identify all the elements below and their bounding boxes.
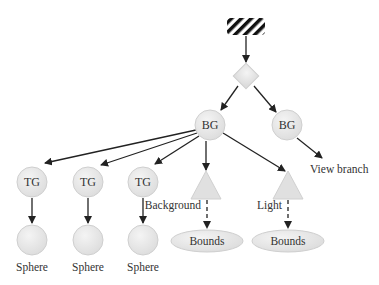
sphere-node-2: Sphere [72, 225, 104, 274]
sphere2-label: Sphere [72, 261, 104, 274]
bg2-label: BG [279, 118, 296, 132]
edge-group-bg1 [221, 86, 238, 110]
sphere-node-3: Sphere [127, 225, 159, 274]
bg1-label: BG [202, 118, 219, 132]
scene-graph-diagram: BG BG View branch TG TG TG Sphere Sphere… [0, 0, 379, 285]
root-locale-node [227, 18, 265, 35]
edge-bg1-light [223, 133, 285, 171]
tg2-label: TG [80, 175, 96, 189]
background-label: Background [145, 199, 201, 212]
branch-group-node-2: BG [272, 110, 302, 140]
tg3-label: TG [135, 175, 151, 189]
view-branch-label: View branch [310, 163, 369, 175]
transform-group-node-1: TG [17, 167, 47, 197]
bounds1-label: Bounds [189, 235, 225, 247]
sphere3-label: Sphere [127, 261, 159, 274]
group-diamond-node [233, 63, 258, 88]
bounds-node-2: Bounds [252, 230, 324, 252]
edge-group-bg2 [254, 86, 276, 112]
transform-group-node-2: TG [73, 167, 103, 197]
sphere-node-1: Sphere [16, 225, 48, 274]
bounds-node-1: Bounds [171, 230, 243, 252]
light-label: Light [257, 199, 283, 212]
light-leaf-node: Light [257, 171, 303, 212]
bounds2-label: Bounds [270, 235, 306, 247]
edge-bg2-view [297, 138, 322, 158]
edge-bg1-tg2 [101, 133, 197, 165]
transform-group-node-3: TG [128, 167, 158, 197]
tg1-label: TG [24, 175, 40, 189]
sphere1-label: Sphere [16, 261, 48, 274]
branch-group-node-1: BG [195, 110, 225, 140]
